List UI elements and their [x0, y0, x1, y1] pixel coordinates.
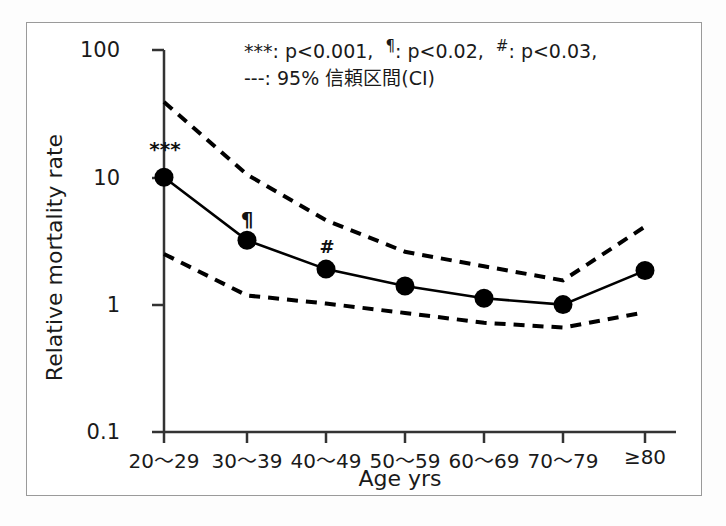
x-axis-title: Age yrs	[150, 466, 650, 491]
data-point-50〜59	[396, 277, 415, 296]
legend-text-p003: : p<0.03,	[508, 40, 597, 62]
legend-line-significance: ***: p<0.001, ¶: p<0.02, #: p<0.03,	[244, 33, 597, 65]
legend-text-p001: : p<0.001,	[273, 40, 374, 62]
data-point-30〜39	[238, 231, 257, 250]
significance-marker-30-39: ¶	[230, 207, 264, 231]
legend-text-p002: : p<0.02,	[395, 40, 484, 62]
legend-symbol-pilcrow: ¶	[385, 37, 395, 55]
y-tick-label-100: 100	[56, 38, 120, 62]
data-point-40〜49	[317, 260, 336, 279]
significance-marker-40-49: #	[310, 236, 344, 257]
legend-symbol-dashes: ---	[244, 67, 265, 89]
chart-figure: 100 10 1 0.1 20〜29 30〜39 40〜49 50〜59 60〜…	[0, 0, 726, 526]
data-point-20〜29	[155, 168, 174, 187]
y-axis-title: Relative mortality rate	[42, 118, 67, 398]
ci-upper-line	[164, 102, 645, 280]
data-point-70〜79	[554, 295, 573, 314]
data-point-60〜69	[475, 289, 494, 308]
chart-legend: ***: p<0.001, ¶: p<0.02, #: p<0.03, ---:…	[244, 33, 597, 92]
significance-marker-20-29: ***	[142, 137, 188, 161]
x-axis-ticks	[164, 432, 645, 443]
y-tick-label-0.1: 0.1	[46, 420, 120, 444]
y-axis-ticks	[152, 50, 164, 432]
legend-symbol-asterisks: ***	[244, 40, 273, 62]
legend-text-ci: : 95% 信頼区間(CI)	[265, 67, 435, 89]
data-point-markers	[155, 168, 655, 314]
legend-symbol-hash: #	[496, 37, 509, 55]
legend-line-ci: ---: 95% 信頼区間(CI)	[244, 65, 597, 92]
data-point-≥80	[636, 261, 655, 280]
